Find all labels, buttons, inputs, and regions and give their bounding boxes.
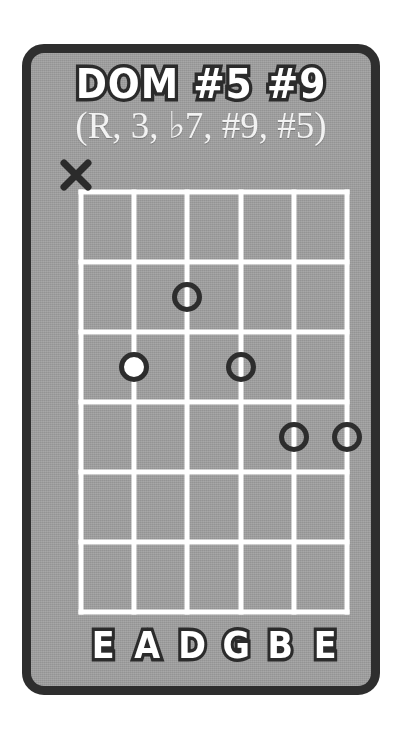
string-label-6: E — [305, 619, 344, 675]
string-label-4: G — [217, 619, 256, 675]
fret-dot-g-fret3 — [226, 352, 256, 382]
title-block: DOM #5 #9 (R, 3, ♭7, #9, #5) — [31, 61, 371, 147]
string-name-row: EADGBE — [81, 619, 347, 675]
chord-formula: (R, 3, ♭7, #9, #5) — [31, 105, 371, 147]
fret-dot-a-fret3 — [119, 352, 149, 382]
string-label-1: E — [84, 619, 123, 675]
fretboard-grid — [81, 192, 347, 612]
fret-grid-lines — [81, 192, 347, 612]
string-label-2: A — [128, 619, 167, 675]
mute-x-icon — [59, 158, 93, 192]
fret-dot-e-fret4 — [332, 422, 362, 452]
chord-diagram-card: DOM #5 #9 (R, 3, ♭7, #9, #5) EADGBE — [22, 44, 380, 695]
fret-dot-b-fret4 — [279, 422, 309, 452]
chord-title: DOM #5 #9 — [41, 61, 361, 107]
string-label-5: B — [261, 619, 300, 675]
string-label-3: D — [172, 619, 211, 675]
